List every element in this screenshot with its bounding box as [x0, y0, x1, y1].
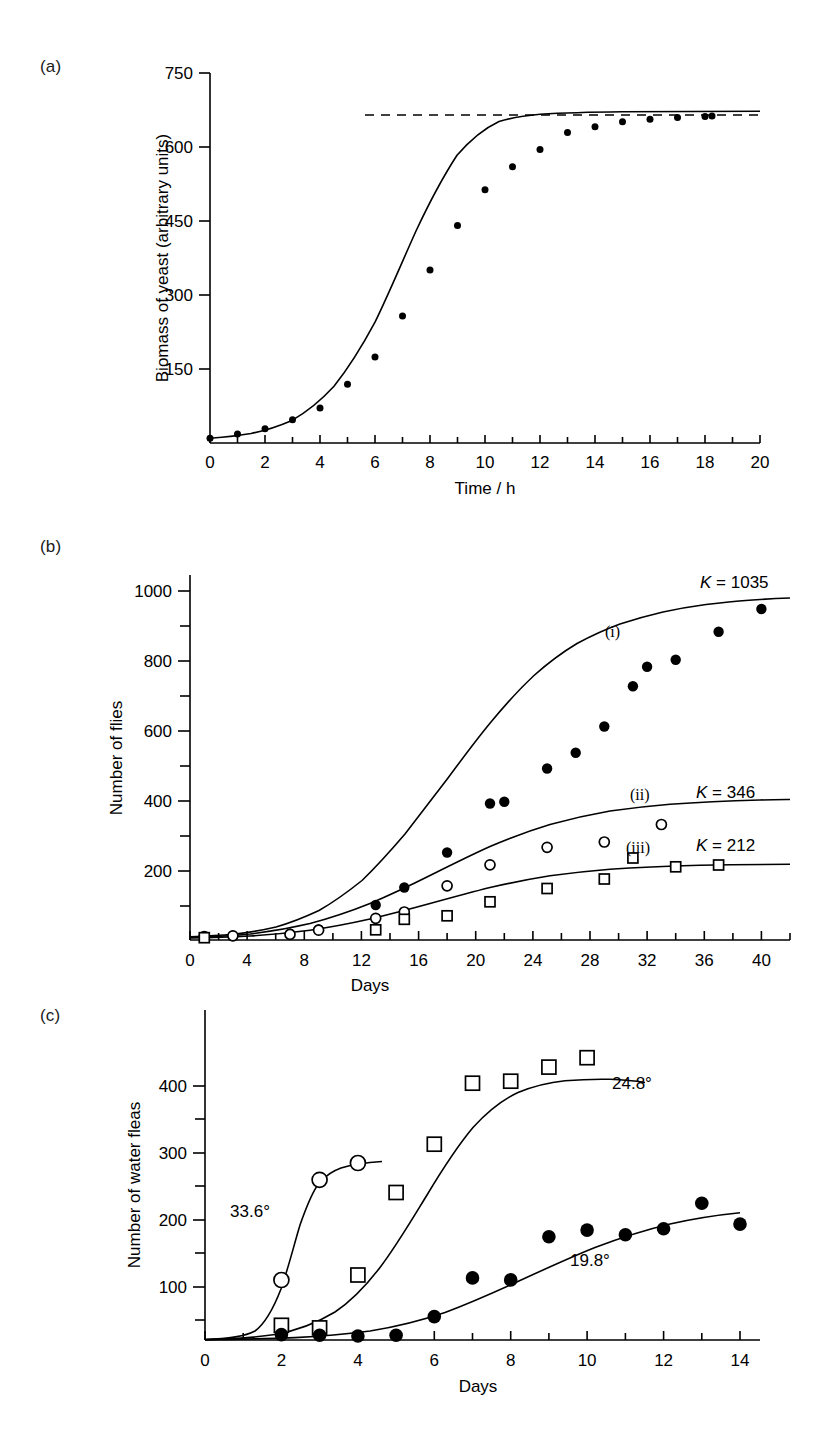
panel-c-curve-336	[205, 1162, 382, 1340]
data-point	[509, 163, 516, 170]
data-point	[599, 721, 609, 731]
data-point	[671, 655, 681, 665]
data-point	[542, 884, 552, 894]
data-point	[427, 266, 434, 273]
data-point	[695, 1197, 709, 1211]
data-point	[592, 123, 599, 130]
data-point	[580, 1223, 594, 1237]
data-point	[466, 1271, 480, 1285]
panel-c-xtick-labels: 0 2 4 6 8 10 12 14	[200, 1351, 749, 1370]
data-point	[389, 1329, 403, 1343]
data-point	[499, 797, 509, 807]
panel-a: (a)	[0, 0, 828, 510]
xtick-10: 10	[578, 1351, 597, 1370]
xtick-10: 10	[476, 453, 495, 472]
panel-c-xlabel: Days	[459, 1377, 498, 1396]
data-point	[571, 748, 581, 758]
xtick-4: 4	[353, 1351, 362, 1370]
xtick-40: 40	[752, 951, 771, 970]
data-point	[537, 146, 544, 153]
panel-b-annot-iii: (iii)	[626, 839, 650, 857]
panel-b-annot-k-346: K = 346	[696, 783, 755, 802]
data-point	[199, 933, 209, 943]
panel-c-annot-248: 24.8°	[612, 1074, 652, 1093]
panel-b-curve-i	[190, 598, 790, 937]
data-point	[466, 1076, 480, 1090]
panel-b-plot: 1000 800 600 400 200 0 4 8 12 16 20 24 2…	[0, 510, 828, 990]
data-point	[642, 662, 652, 672]
xtick-4: 4	[315, 453, 324, 472]
panel-a-fit-curve	[210, 111, 760, 438]
data-point	[733, 1217, 747, 1231]
xtick-20: 20	[751, 453, 770, 472]
ytick-600: 600	[144, 722, 172, 741]
data-point	[371, 900, 381, 910]
data-point	[262, 425, 269, 432]
panel-b-annot-k-1035: K = 1035	[700, 573, 769, 592]
ytick-300: 300	[159, 1144, 187, 1163]
data-point	[599, 874, 609, 884]
panel-b-annot-i: (i)	[605, 623, 620, 641]
data-point	[442, 911, 452, 921]
xtick-28: 28	[581, 951, 600, 970]
xtick-4: 4	[242, 951, 251, 970]
xtick-14: 14	[731, 1351, 750, 1370]
xtick-12: 12	[352, 951, 371, 970]
xtick-8: 8	[425, 453, 434, 472]
panel-b-series-ii-points	[199, 820, 666, 942]
data-point	[599, 837, 609, 847]
growth-curves-figure: (a)	[0, 0, 828, 1439]
data-point	[234, 431, 241, 438]
data-point	[442, 847, 452, 857]
panel-c-ytick-labels: 400 300 200 100	[159, 1077, 187, 1297]
data-point	[275, 1328, 289, 1342]
panel-b: (b)	[0, 510, 828, 990]
panel-a-ylabel: Biomass of yeast (arbitrary units)	[153, 134, 172, 382]
data-point	[674, 114, 681, 121]
data-point	[485, 860, 495, 870]
xtick-2: 2	[277, 1351, 286, 1370]
data-point	[274, 1273, 289, 1288]
panel-c-curve-248	[205, 1079, 645, 1339]
data-point	[619, 118, 626, 125]
panel-c-axes	[193, 1010, 760, 1340]
xtick-14: 14	[586, 453, 605, 472]
data-point	[371, 913, 381, 923]
xtick-12: 12	[531, 453, 550, 472]
data-point	[564, 129, 571, 136]
data-point	[504, 1273, 518, 1287]
data-point	[399, 313, 406, 320]
panel-b-xtick-labels: 0 4 8 12 16 20 24 28 32 36 40	[185, 951, 771, 970]
panel-c-series-248-points	[274, 1051, 594, 1335]
xtick-2: 2	[260, 453, 269, 472]
data-point	[656, 820, 666, 830]
data-point	[372, 353, 379, 360]
panel-a-plot: 750 600 450 300 150 0 2 4 6 8 10 12 14 1…	[0, 0, 828, 510]
data-point	[504, 1074, 518, 1088]
data-point	[428, 1310, 442, 1324]
data-point	[542, 1060, 556, 1074]
data-point	[207, 435, 214, 442]
data-point	[628, 681, 638, 691]
data-point	[485, 897, 495, 907]
data-point	[756, 604, 766, 614]
data-point	[657, 1222, 671, 1236]
panel-b-axes	[178, 575, 790, 940]
data-point	[702, 113, 709, 120]
xtick-0: 0	[205, 453, 214, 472]
panel-a-axes	[199, 73, 760, 443]
xtick-24: 24	[523, 951, 542, 970]
data-point	[542, 1230, 556, 1244]
xtick-0: 0	[185, 951, 194, 970]
xtick-16: 16	[409, 951, 428, 970]
data-point	[709, 113, 716, 120]
xtick-0: 0	[200, 1351, 209, 1370]
data-point	[389, 1186, 403, 1200]
panel-b-ylabel: Number of flies	[107, 701, 126, 815]
data-point	[344, 381, 351, 388]
data-point	[713, 627, 723, 637]
panel-c: (c)	[0, 990, 828, 1439]
data-point	[314, 925, 324, 935]
ytick-1000: 1000	[134, 582, 172, 601]
xtick-18: 18	[696, 453, 715, 472]
